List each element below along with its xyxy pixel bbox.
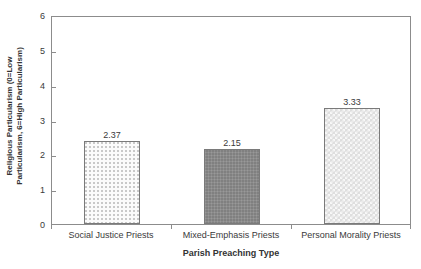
bar-chart-figure: Religious Particularism (0=Low Particula…: [0, 0, 421, 269]
x-axis-title: Parish Preaching Type: [51, 248, 411, 259]
x-axis-category-label: Personal Morality Priests: [301, 229, 401, 241]
x-axis-category-label: Mixed-Emphasis Priests: [183, 229, 280, 241]
y-axis-tick-label: 4: [40, 81, 45, 90]
bar-value-label: 2.15: [223, 138, 241, 148]
y-axis-tick-label: 6: [40, 12, 45, 21]
y-axis-tick-mark: [52, 87, 56, 88]
x-axis-category-label: Social Justice Priests: [68, 229, 153, 241]
y-axis-title-line-2: Particularism, 6=High Particularism): [15, 47, 25, 185]
y-axis-tick-mark: [52, 52, 56, 53]
y-axis-title-text: Religious Particularism (0=Low Particula…: [5, 47, 25, 185]
y-axis-tick-mark: [52, 122, 56, 123]
y-axis-tick-mark: [52, 191, 56, 192]
y-axis-title-line-1: Religious Particularism (0=Low: [5, 57, 14, 176]
bar-2: [204, 149, 260, 224]
y-axis-title: Religious Particularism (0=Low Particula…: [0, 0, 30, 232]
y-axis-tick-label: 3: [40, 116, 45, 125]
plot-inner: 2.372.153.33: [52, 17, 410, 224]
x-axis-category-labels: Social Justice PriestsMixed-Emphasis Pri…: [51, 229, 411, 245]
y-axis-tick-label: 1: [40, 186, 45, 195]
bar-3: [324, 108, 380, 224]
bar-value-label: 2.37: [103, 130, 121, 140]
plot-area: 2.372.153.33: [51, 16, 411, 225]
bar-1: [84, 141, 140, 224]
y-axis-tick-label: 0: [40, 221, 45, 230]
y-axis-tick-labels: 0123456: [30, 0, 48, 232]
y-axis-tick-mark: [52, 156, 56, 157]
y-axis-tick-label: 2: [40, 151, 45, 160]
bar-value-label: 3.33: [343, 97, 361, 107]
y-axis-tick-label: 5: [40, 46, 45, 55]
